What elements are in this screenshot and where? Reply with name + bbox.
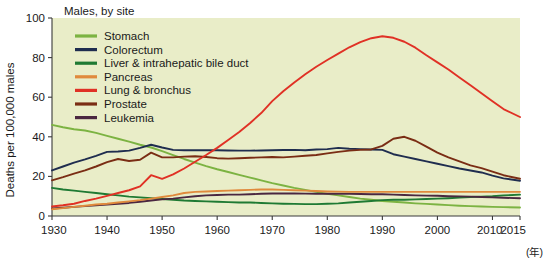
y-axis-title: Deaths per 100,000 males xyxy=(4,62,16,197)
legend-label: Pancreas xyxy=(104,71,153,83)
chart-title: Males, by site xyxy=(64,5,134,17)
legend-label: Colorectum xyxy=(104,44,163,56)
y-tick-label: 80 xyxy=(32,52,45,64)
x-tick-label: 1930 xyxy=(41,224,67,236)
legend-label: Leukemia xyxy=(104,112,154,124)
x-tick-label: 1990 xyxy=(370,224,396,236)
legend-label: Prostate xyxy=(104,98,147,110)
chart-container: 020406080100 193019401950196019701980199… xyxy=(0,0,551,262)
line-chart: 020406080100 193019401950196019701980199… xyxy=(0,0,551,262)
legend-label: Stomach xyxy=(104,30,149,42)
legend-label: Liver & intrahepatic bile duct xyxy=(104,57,249,69)
x-tick-label: 1960 xyxy=(204,224,230,236)
y-tick-label: 100 xyxy=(26,12,45,24)
y-tick-label: 40 xyxy=(32,131,45,143)
y-tick-label: 60 xyxy=(32,91,45,103)
x-tick-label: 1950 xyxy=(149,224,175,236)
y-tick-label: 0 xyxy=(39,210,45,222)
x-tick-label: 2010 xyxy=(477,224,503,236)
x-tick-label: 2000 xyxy=(425,224,451,236)
legend-label: Lung & bronchus xyxy=(104,84,191,96)
x-tick-label: 1980 xyxy=(314,224,340,236)
x-axis-unit-note: (年) xyxy=(526,246,543,258)
x-tick-label: 1970 xyxy=(259,224,285,236)
y-tick-label: 20 xyxy=(32,170,45,182)
x-tick-label: 1940 xyxy=(94,224,120,236)
x-tick-label: 2015 xyxy=(500,224,526,236)
